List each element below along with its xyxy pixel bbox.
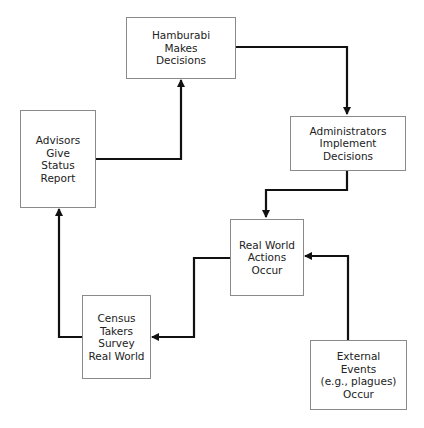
node-label: Real World Actions Occur bbox=[239, 239, 295, 277]
arrow-real-world-to-census bbox=[152, 258, 230, 337]
arrow-hamburabi-to-administrators bbox=[235, 47, 347, 114]
node-label: Hamburabi Makes Decisions bbox=[152, 29, 210, 67]
arrow-census-to-advisors bbox=[59, 209, 82, 337]
node-label: External Events (e.g., plagues) Occur bbox=[321, 350, 397, 400]
node-hamburabi: Hamburabi Makes Decisions bbox=[126, 17, 236, 79]
arrow-administrators-to-real-world bbox=[266, 170, 347, 217]
node-label: Administrators Implement Decisions bbox=[309, 125, 386, 163]
arrow-advisors-to-hamburabi bbox=[96, 80, 181, 159]
node-administrators: Administrators Implement Decisions bbox=[290, 116, 406, 171]
node-label: Census Takers Survey Real World bbox=[88, 312, 144, 362]
arrow-external-to-real-world bbox=[305, 256, 348, 340]
node-label: Advisors Give Status Report bbox=[36, 134, 80, 184]
node-advisors: Advisors Give Status Report bbox=[20, 110, 96, 208]
node-external: External Events (e.g., plagues) Occur bbox=[310, 340, 407, 410]
node-census: Census Takers Survey Real World bbox=[82, 295, 151, 379]
node-real-world: Real World Actions Occur bbox=[230, 219, 304, 296]
diagram-canvas: Hamburabi Makes Decisions Administrators… bbox=[0, 0, 424, 428]
